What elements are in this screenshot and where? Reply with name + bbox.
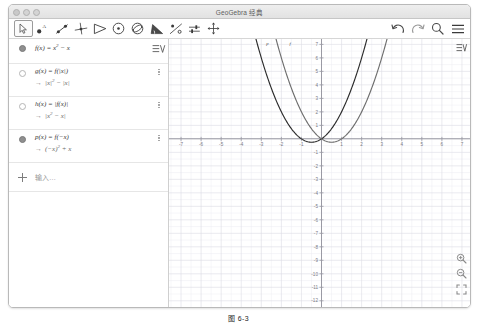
svg-text:-4: -4 bbox=[239, 142, 244, 147]
curve-label: p bbox=[265, 41, 269, 46]
zoom-in-button[interactable] bbox=[455, 252, 467, 264]
curve-label: f bbox=[289, 41, 291, 46]
svg-text:3: 3 bbox=[315, 96, 318, 101]
figure-caption: 图 6-3 bbox=[0, 313, 477, 323]
algebra-row-1-content: f(x) = x2 − x bbox=[35, 43, 150, 52]
zoom-fit-button[interactable] bbox=[455, 283, 467, 295]
window-body: f(x) = x2 − x g(x) = f(|x|) →|x|2 − |x| bbox=[9, 39, 470, 308]
algebra-row-1-definition[interactable]: f(x) = x2 − x bbox=[35, 43, 146, 52]
algebra-row-2-content: g(x) = f(|x|) →|x|2 − |x| bbox=[35, 68, 150, 87]
coordinate-plane[interactable]: -7-6-5-4-3-2-112345677654321-1-2-3-4-5-6… bbox=[169, 39, 470, 308]
visibility-marker-hollow[interactable] bbox=[19, 70, 26, 77]
graphics-view[interactable]: -7-6-5-4-3-2-112345677654321-1-2-3-4-5-6… bbox=[169, 39, 470, 308]
slider-tool-icon[interactable] bbox=[185, 20, 204, 37]
algebra-row-4-content: p(x) = f(−x) →(−x)2 + x bbox=[35, 134, 150, 153]
svg-text:3: 3 bbox=[380, 142, 383, 147]
algebra-row-3[interactable]: h(x) = |f(x)| →|x2 − x| bbox=[9, 97, 168, 130]
svg-text:-2: -2 bbox=[314, 164, 319, 169]
svg-text:-7: -7 bbox=[314, 231, 319, 236]
svg-text:-3: -3 bbox=[314, 177, 319, 182]
svg-text:7: 7 bbox=[315, 42, 318, 47]
svg-text:-1: -1 bbox=[314, 150, 319, 155]
algebra-settings-icon[interactable] bbox=[150, 43, 168, 54]
algebra-view: f(x) = x2 − x g(x) = f(|x|) →|x|2 − |x| bbox=[9, 39, 169, 308]
visibility-toggle-3[interactable] bbox=[9, 101, 35, 110]
svg-text:4: 4 bbox=[315, 83, 318, 88]
svg-text:-2: -2 bbox=[279, 142, 284, 147]
svg-text:-5: -5 bbox=[314, 204, 319, 209]
algebra-row-4-kebab-icon[interactable] bbox=[150, 134, 168, 141]
algebra-row-4-output: →(−x)2 + x bbox=[35, 144, 146, 153]
screenshot-root: GeoGebra 经典 A bbox=[0, 0, 477, 325]
algebra-row-4[interactable]: p(x) = f(−x) →(−x)2 + x bbox=[9, 130, 168, 163]
svg-text:5: 5 bbox=[315, 69, 318, 74]
angle-tool-icon[interactable] bbox=[147, 20, 166, 37]
visibility-toggle-2[interactable] bbox=[9, 68, 35, 77]
graphics-settings-icon[interactable] bbox=[455, 42, 467, 53]
svg-text:1: 1 bbox=[315, 123, 318, 128]
tool-group-left: A bbox=[14, 20, 223, 37]
geogebra-window: GeoGebra 经典 A bbox=[8, 4, 471, 308]
move-graphics-tool-icon[interactable] bbox=[204, 20, 223, 37]
visibility-toggle-1[interactable] bbox=[9, 43, 35, 52]
visibility-marker-filled[interactable] bbox=[19, 136, 26, 143]
svg-text:7: 7 bbox=[461, 142, 464, 147]
search-icon[interactable] bbox=[429, 20, 446, 37]
svg-text:-6: -6 bbox=[199, 142, 204, 147]
move-tool-icon[interactable] bbox=[14, 20, 33, 37]
algebra-input-row[interactable]: 输入… bbox=[9, 163, 168, 192]
algebra-row-3-definition[interactable]: h(x) = |f(x)| bbox=[35, 101, 146, 108]
title-bar: GeoGebra 经典 bbox=[9, 5, 470, 19]
svg-text:-5: -5 bbox=[219, 142, 224, 147]
svg-text:-6: -6 bbox=[314, 218, 319, 223]
svg-text:2: 2 bbox=[315, 110, 318, 115]
svg-text:-9: -9 bbox=[314, 258, 319, 263]
visibility-toggle-4[interactable] bbox=[9, 134, 35, 143]
svg-text:-4: -4 bbox=[314, 191, 319, 196]
ellipse-tool-icon[interactable] bbox=[128, 20, 147, 37]
point-tool-icon[interactable]: A bbox=[33, 20, 52, 37]
line-tool-icon[interactable] bbox=[52, 20, 71, 37]
svg-text:-8: -8 bbox=[314, 245, 319, 250]
svg-text:2: 2 bbox=[360, 142, 363, 147]
menu-icon[interactable] bbox=[449, 20, 466, 37]
algebra-row-1[interactable]: f(x) = x2 − x bbox=[9, 39, 168, 64]
redo-icon[interactable] bbox=[409, 20, 426, 37]
visibility-marker-hollow[interactable] bbox=[19, 103, 26, 110]
algebra-row-4-definition[interactable]: p(x) = f(−x) bbox=[35, 134, 146, 141]
main-toolbar: A bbox=[9, 19, 470, 39]
svg-text:6: 6 bbox=[441, 142, 444, 147]
algebra-row-2-output: →|x|2 − |x| bbox=[35, 78, 146, 87]
svg-text:-7: -7 bbox=[179, 142, 184, 147]
algebra-row-3-kebab-icon[interactable] bbox=[150, 101, 168, 108]
svg-text:5: 5 bbox=[421, 142, 424, 147]
tool-group-right bbox=[389, 20, 466, 37]
circle-tool-icon[interactable] bbox=[109, 20, 128, 37]
add-input-button[interactable] bbox=[9, 173, 35, 182]
algebra-row-3-content: h(x) = |f(x)| →|x2 − x| bbox=[35, 101, 150, 120]
reflect-tool-icon[interactable] bbox=[166, 20, 185, 37]
visibility-marker-filled[interactable] bbox=[19, 45, 26, 52]
window-title: GeoGebra 经典 bbox=[9, 7, 470, 17]
svg-text:-3: -3 bbox=[259, 142, 264, 147]
plus-icon[interactable] bbox=[18, 173, 27, 182]
algebra-input-field[interactable]: 输入… bbox=[35, 172, 56, 182]
perpendicular-line-tool-icon[interactable] bbox=[71, 20, 90, 37]
zoom-out-button[interactable] bbox=[455, 267, 467, 279]
svg-text:4: 4 bbox=[400, 142, 403, 147]
algebra-row-2[interactable]: g(x) = f(|x|) →|x|2 − |x| bbox=[9, 64, 168, 97]
undo-icon[interactable] bbox=[389, 20, 406, 37]
svg-text:-12: -12 bbox=[311, 298, 318, 303]
svg-text:-10: -10 bbox=[311, 272, 318, 277]
svg-text:1: 1 bbox=[340, 142, 343, 147]
algebra-row-2-kebab-icon[interactable] bbox=[150, 68, 168, 75]
algebra-row-3-output: →|x2 − x| bbox=[35, 111, 146, 120]
svg-text:-1: -1 bbox=[299, 142, 304, 147]
svg-text:6: 6 bbox=[315, 56, 318, 61]
svg-text:-11: -11 bbox=[312, 285, 319, 290]
polygon-tool-icon[interactable] bbox=[90, 20, 109, 37]
svg-text:A: A bbox=[43, 24, 47, 29]
algebra-row-2-definition[interactable]: g(x) = f(|x|) bbox=[35, 68, 146, 75]
